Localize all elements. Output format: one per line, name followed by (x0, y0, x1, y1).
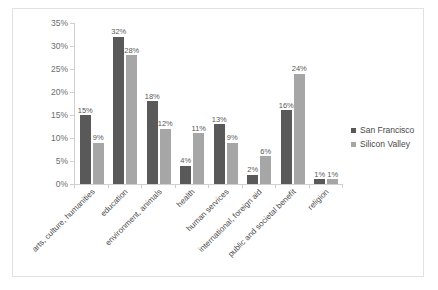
y-axis-line (74, 23, 75, 184)
y-axis-tick (70, 92, 74, 93)
y-axis-tick (70, 115, 74, 116)
legend-item-label: Silicon Valley (360, 139, 410, 149)
x-axis-category-label: education (100, 188, 130, 218)
legend-item-label: San Francisco (360, 125, 414, 135)
bar: 28% (126, 55, 137, 184)
bar-group: 4%11% (178, 23, 204, 184)
x-axis-tick (242, 184, 243, 188)
bar-group: 15%9% (78, 23, 104, 184)
bar-group: 18%12% (145, 23, 171, 184)
bar-group: 32%28% (111, 23, 137, 184)
bar-value-label: 13% (212, 116, 227, 124)
bar-group: 13%9% (212, 23, 238, 184)
bar: 6% (260, 156, 271, 184)
plot-area: 0%5%10%15%20%25%30%35% 15%9%32%28%18%12%… (74, 23, 342, 184)
x-axis-category-label: public and societal benefit (227, 188, 298, 259)
x-axis-tick (342, 184, 343, 188)
bar: 18% (147, 101, 158, 184)
legend-square-icon (351, 128, 356, 133)
y-axis-tick (70, 138, 74, 139)
bar: 15% (80, 115, 91, 184)
bar-value-label: 2% (247, 166, 258, 174)
x-axis-category-label: religion (307, 188, 331, 212)
chart-container: 0%5%10%15%20%25%30%35% 15%9%32%28%18%12%… (12, 8, 424, 277)
y-axis-tick-label: 0% (56, 179, 68, 189)
chart-legend: San FranciscoSilicon Valley (351, 125, 414, 153)
x-axis-tick (108, 184, 109, 188)
x-axis-tick (309, 184, 310, 188)
y-axis-tick-label: 30% (51, 41, 68, 51)
y-axis-tick (70, 161, 74, 162)
bar-value-label: 12% (158, 120, 173, 128)
x-axis-tick (74, 184, 75, 188)
legend-item[interactable]: San Francisco (351, 125, 414, 135)
y-axis-tick-label: 25% (51, 64, 68, 74)
bar-value-label: 9% (93, 134, 104, 142)
bar: 13% (214, 124, 225, 184)
bar-value-label: 28% (124, 47, 139, 55)
bar: 1% (327, 179, 338, 184)
y-axis-tick (70, 69, 74, 70)
bar: 12% (160, 129, 171, 184)
legend-square-icon (351, 142, 356, 147)
y-axis-tick-label: 10% (51, 133, 68, 143)
bar: 11% (193, 133, 204, 184)
bar-value-label: 1% (327, 171, 338, 179)
bar-value-label: 32% (111, 28, 126, 36)
y-axis-tick (70, 23, 74, 24)
x-axis-category-label: health (176, 188, 197, 209)
bar: 4% (180, 166, 191, 184)
legend-item[interactable]: Silicon Valley (351, 139, 414, 149)
bar: 16% (281, 110, 292, 184)
bar: 9% (93, 143, 104, 184)
bar-group: 2%6% (245, 23, 271, 184)
x-axis-tick (175, 184, 176, 188)
bar: 2% (247, 175, 258, 184)
bar-value-label: 24% (292, 65, 307, 73)
bar-value-label: 15% (78, 107, 93, 115)
y-axis-tick-label: 15% (51, 110, 68, 120)
x-axis-tick (275, 184, 276, 188)
bar: 32% (113, 37, 124, 184)
x-axis-category-label: arts, culture, humanities (31, 188, 97, 254)
bar: 9% (227, 143, 238, 184)
y-axis-tick (70, 46, 74, 47)
bar-value-label: 11% (192, 125, 206, 133)
bar-value-label: 16% (279, 102, 294, 110)
x-axis-tick (208, 184, 209, 188)
y-axis-tick-label: 5% (56, 156, 68, 166)
bar-value-label: 6% (260, 148, 271, 156)
y-axis-tick-label: 20% (51, 87, 68, 97)
bar-value-label: 1% (314, 171, 325, 179)
bar-group: 1%1% (312, 23, 338, 184)
bar: 1% (314, 179, 325, 184)
x-axis-category-label: international, foreign aid (198, 188, 264, 254)
y-axis-tick-label: 35% (51, 18, 68, 28)
bar-value-label: 18% (145, 93, 160, 101)
bar-group: 16%24% (279, 23, 305, 184)
bar: 24% (294, 74, 305, 184)
bar-value-label: 9% (227, 134, 238, 142)
bar-value-label: 4% (180, 157, 191, 165)
x-axis-tick (141, 184, 142, 188)
